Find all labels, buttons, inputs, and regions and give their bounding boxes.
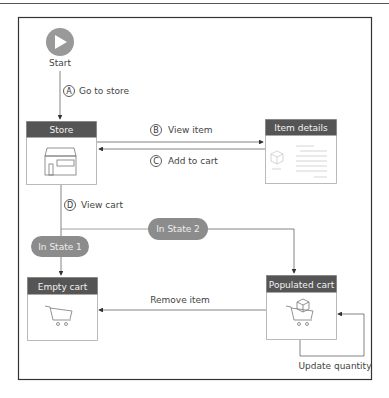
pill-in-state-2: In State 2 <box>148 218 208 240</box>
marker-d: D <box>67 201 73 210</box>
start-node: Start <box>46 28 74 68</box>
marker-a: A <box>66 87 72 96</box>
item-details-title: Item details <box>274 123 328 133</box>
node-empty-cart[interactable]: Empty cart <box>28 278 98 341</box>
node-item-details[interactable]: Item details <box>266 120 337 184</box>
transition-a: A Go to store <box>64 86 130 97</box>
marker-c: C <box>153 157 159 166</box>
pill-in-state-1: In State 1 <box>31 236 89 257</box>
update-quantity-label: Update quantity <box>299 361 373 371</box>
empty-cart-title: Empty cart <box>38 282 88 292</box>
store-title: Store <box>50 125 74 135</box>
transition-d-label: View cart <box>81 200 123 210</box>
start-label: Start <box>49 58 71 68</box>
populated-cart-title: Populated cart <box>269 280 335 290</box>
transition-c-label: Add to cart <box>168 156 218 166</box>
transition-b: B View item <box>151 125 213 136</box>
svg-text:In State 1: In State 1 <box>38 242 82 252</box>
svg-text:In State 2: In State 2 <box>156 224 200 234</box>
marker-b: B <box>153 126 159 135</box>
flow-diagram: Start A Go to store Store Item details <box>0 0 389 398</box>
transition-a-label: Go to store <box>79 86 129 96</box>
transition-d: D View cart <box>65 200 124 211</box>
transition-b-label: View item <box>168 125 213 135</box>
node-populated-cart[interactable]: Populated cart <box>267 276 337 340</box>
node-store[interactable]: Store <box>27 122 97 185</box>
remove-item-label: Remove item <box>150 295 210 305</box>
